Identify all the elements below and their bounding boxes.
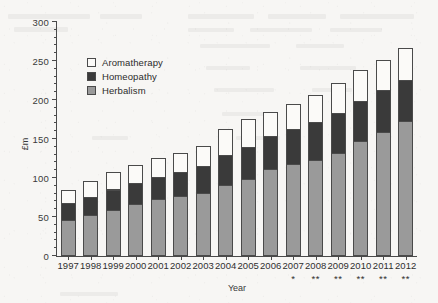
bar-group[interactable] bbox=[308, 96, 323, 256]
legend-item-aromatherapy[interactable]: Aromatherapy bbox=[87, 55, 163, 69]
bar-segment-homeopathy[interactable] bbox=[398, 80, 413, 122]
x-axis-label-2007: 2007 bbox=[282, 260, 305, 271]
bar-segment-herbalism[interactable] bbox=[196, 193, 211, 256]
y-axis-tick-minor bbox=[54, 91, 57, 92]
bar-segment-aromatherapy[interactable] bbox=[308, 95, 323, 123]
bar-group[interactable] bbox=[106, 173, 121, 256]
bar-group[interactable] bbox=[331, 84, 346, 256]
bar-segment-aromatherapy[interactable] bbox=[286, 104, 301, 129]
bar-segment-aromatherapy[interactable] bbox=[83, 181, 98, 198]
bar-segment-aromatherapy[interactable] bbox=[263, 112, 278, 137]
bar-segment-homeopathy[interactable] bbox=[173, 172, 188, 196]
bar-group[interactable] bbox=[128, 166, 143, 256]
y-axis-tick-minor bbox=[54, 161, 57, 162]
y-axis-tick-minor bbox=[54, 29, 57, 30]
legend-swatch-homeopathy bbox=[87, 72, 96, 81]
bar-segment-aromatherapy[interactable] bbox=[106, 172, 121, 191]
y-axis-tick-minor bbox=[54, 224, 57, 225]
y-axis-tick-major bbox=[52, 21, 57, 22]
y-axis-line bbox=[56, 22, 57, 257]
bar-segment-herbalism[interactable] bbox=[241, 179, 256, 256]
bar-segment-aromatherapy[interactable] bbox=[353, 70, 368, 101]
legend-swatch-herbalism bbox=[87, 86, 96, 95]
x-axis-label-2005: 2005 bbox=[237, 260, 260, 271]
x-axis-label-2000: 2000 bbox=[125, 260, 148, 271]
bar-segment-aromatherapy[interactable] bbox=[376, 60, 391, 91]
bar-segment-aromatherapy[interactable] bbox=[241, 119, 256, 149]
bar-segment-homeopathy[interactable] bbox=[308, 122, 323, 160]
y-axis-tick-minor bbox=[54, 76, 57, 77]
bar-group[interactable] bbox=[61, 190, 76, 256]
bar-group[interactable] bbox=[241, 120, 256, 257]
x-axis-label-2001: 2001 bbox=[147, 260, 170, 271]
y-axis-tick-minor bbox=[54, 169, 57, 170]
page-bleed-through bbox=[8, 14, 90, 19]
bar-segment-aromatherapy[interactable] bbox=[331, 83, 346, 114]
y-axis-tick-minor bbox=[54, 247, 57, 248]
bar-segment-aromatherapy[interactable] bbox=[173, 153, 188, 174]
y-axis-tick-minor bbox=[54, 208, 57, 209]
y-axis-tick-major bbox=[52, 216, 57, 217]
bar-segment-homeopathy[interactable] bbox=[286, 129, 301, 165]
bar-segment-aromatherapy[interactable] bbox=[61, 190, 76, 204]
legend-item-herbalism[interactable]: Herbalism bbox=[87, 83, 163, 97]
bar-segment-herbalism[interactable] bbox=[128, 204, 143, 256]
bar-segment-herbalism[interactable] bbox=[376, 132, 391, 256]
bar-segment-herbalism[interactable] bbox=[106, 210, 121, 256]
bar-segment-homeopathy[interactable] bbox=[106, 190, 121, 211]
legend-label: Herbalism bbox=[102, 85, 146, 96]
y-axis-tick-minor bbox=[54, 107, 57, 108]
bar-segment-herbalism[interactable] bbox=[308, 160, 323, 256]
y-axis-tick-minor bbox=[54, 154, 57, 155]
bar-group[interactable] bbox=[196, 147, 211, 256]
bar-segment-homeopathy[interactable] bbox=[376, 90, 391, 133]
bar-group[interactable] bbox=[353, 71, 368, 256]
y-axis-tick-minor bbox=[54, 130, 57, 131]
bar-segment-homeopathy[interactable] bbox=[353, 101, 368, 143]
bar-group[interactable] bbox=[286, 105, 301, 256]
bar-segment-herbalism[interactable] bbox=[151, 199, 166, 256]
bar-group[interactable] bbox=[218, 130, 233, 256]
bar-segment-herbalism[interactable] bbox=[263, 169, 278, 256]
bar-segment-aromatherapy[interactable] bbox=[128, 165, 143, 185]
x-axis-label-2011: 2011 bbox=[372, 260, 395, 271]
x-axis-label-2003: 2003 bbox=[192, 260, 215, 271]
bar-segment-herbalism[interactable] bbox=[286, 164, 301, 256]
x-axis-label-2012: 2012 bbox=[395, 260, 418, 271]
bar-segment-herbalism[interactable] bbox=[398, 121, 413, 256]
bar-group[interactable] bbox=[398, 49, 413, 256]
bar-segment-homeopathy[interactable] bbox=[61, 203, 76, 221]
bar-group[interactable] bbox=[263, 112, 278, 256]
bar-group[interactable] bbox=[151, 159, 166, 256]
y-axis-tick-major bbox=[52, 60, 57, 61]
bar-segment-homeopathy[interactable] bbox=[263, 136, 278, 171]
x-axis-footnote-marker-2007: * bbox=[282, 273, 305, 284]
bar-segment-aromatherapy[interactable] bbox=[151, 158, 166, 178]
bar-segment-aromatherapy[interactable] bbox=[196, 146, 211, 167]
y-axis-tick-label: 0 bbox=[44, 251, 49, 262]
page-bleed-through bbox=[188, 14, 254, 19]
bar-segment-homeopathy[interactable] bbox=[83, 197, 98, 216]
bar-group[interactable] bbox=[376, 61, 391, 256]
y-axis-tick-minor bbox=[54, 200, 57, 201]
bar-segment-homeopathy[interactable] bbox=[151, 177, 166, 200]
bar-group[interactable] bbox=[173, 154, 188, 256]
bar-segment-herbalism[interactable] bbox=[353, 141, 368, 256]
bar-segment-herbalism[interactable] bbox=[83, 215, 98, 256]
bar-segment-homeopathy[interactable] bbox=[218, 155, 233, 186]
bar-segment-aromatherapy[interactable] bbox=[218, 129, 233, 157]
bar-segment-homeopathy[interactable] bbox=[128, 183, 143, 204]
bar-segment-homeopathy[interactable] bbox=[331, 113, 346, 154]
bar-segment-herbalism[interactable] bbox=[331, 153, 346, 256]
bar-segment-homeopathy[interactable] bbox=[196, 166, 211, 194]
y-axis-tick-minor bbox=[54, 68, 57, 69]
legend-item-homeopathy[interactable]: Homeopathy bbox=[87, 69, 163, 83]
y-axis-tick-minor bbox=[54, 44, 57, 45]
bar-segment-herbalism[interactable] bbox=[218, 185, 233, 256]
y-axis-tick-minor bbox=[54, 146, 57, 147]
bar-segment-herbalism[interactable] bbox=[173, 196, 188, 256]
bar-segment-homeopathy[interactable] bbox=[241, 147, 256, 180]
bar-group[interactable] bbox=[83, 182, 98, 256]
bar-segment-herbalism[interactable] bbox=[61, 220, 76, 256]
bar-segment-aromatherapy[interactable] bbox=[398, 48, 413, 81]
